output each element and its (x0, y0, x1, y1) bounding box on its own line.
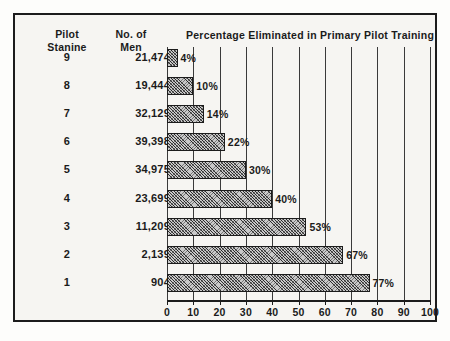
x-tick-60 (325, 300, 326, 305)
row-no-of-men-value: 21,474 (92, 51, 170, 63)
bar-value-label: 14% (207, 108, 229, 120)
x-tick-label-100: 100 (415, 306, 445, 318)
table-row: 819,44410% (0, 75, 450, 97)
bar-value-label: 53% (309, 221, 331, 233)
column-header-no-of-men-line1: No. of (92, 28, 170, 41)
bar (167, 161, 246, 179)
bar-value-label: 4% (181, 52, 197, 64)
x-tick-80 (377, 300, 378, 305)
bar (167, 274, 370, 292)
row-no-of-men-value: 32,129 (92, 107, 170, 119)
table-row: 921,4744% (0, 47, 450, 69)
table-row: 534,97530% (0, 159, 450, 181)
row-no-of-men-value: 23,699 (92, 192, 170, 204)
row-no-of-men-value: 11,209 (92, 220, 170, 232)
row-no-of-men-value: 19,444 (92, 79, 170, 91)
bar-value-label: 22% (228, 136, 250, 148)
x-tick-50 (299, 300, 300, 305)
x-tick-90 (404, 300, 405, 305)
bar-value-label: 40% (275, 193, 297, 205)
x-tick-70 (351, 300, 352, 305)
table-row: 190477% (0, 272, 450, 294)
table-row: 311,20953% (0, 216, 450, 238)
table-row: 22,13967% (0, 244, 450, 266)
bar (167, 218, 306, 236)
bar (167, 105, 204, 123)
x-tick-10 (193, 300, 194, 305)
x-tick-30 (246, 300, 247, 305)
bar (167, 133, 225, 151)
row-no-of-men-value: 904 (92, 276, 170, 288)
chart-title: Percentage Eliminated in Primary Pilot T… (186, 29, 436, 41)
bar-value-label: 67% (346, 249, 368, 261)
table-row: 423,69940% (0, 188, 450, 210)
bar (167, 190, 272, 208)
x-tick-0 (167, 300, 168, 305)
row-no-of-men-value: 34,975 (92, 163, 170, 175)
x-tick-100 (430, 300, 431, 305)
table-row: 732,12914% (0, 103, 450, 125)
bar (167, 49, 178, 67)
bar (167, 246, 343, 264)
table-row: 639,39822% (0, 131, 450, 153)
x-tick-40 (272, 300, 273, 305)
x-tick-20 (220, 300, 221, 305)
bar (167, 77, 193, 95)
row-no-of-men-value: 39,398 (92, 135, 170, 147)
bar-value-label: 30% (249, 164, 271, 176)
figure-root: Pilot Stanine No. of Men Percentage Elim… (0, 0, 450, 341)
bar-value-label: 77% (373, 277, 395, 289)
bar-value-label: 10% (196, 80, 218, 92)
row-no-of-men-value: 2,139 (92, 248, 170, 260)
